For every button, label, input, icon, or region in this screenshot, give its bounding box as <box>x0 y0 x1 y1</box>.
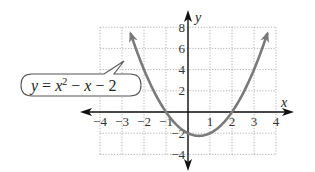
x-axis-label: x <box>280 95 288 110</box>
y-tick-label: 4 <box>179 62 186 77</box>
y-tick-label: −4 <box>171 147 185 162</box>
x-tick-label: 3 <box>251 114 258 129</box>
equation-callout: y = x2 − x − 2 <box>21 61 141 96</box>
y-tick-label: 8 <box>179 20 186 35</box>
parabola-graph: −4−3−2−11234−4−22468 x y y = x2 − x − 2 <box>0 0 315 172</box>
x-tick-label: 4 <box>273 114 280 129</box>
y-tick-label: 6 <box>179 41 186 56</box>
y-tick-label: 2 <box>179 83 186 98</box>
y-axis-label: y <box>193 10 202 25</box>
x-tick-label: −2 <box>137 114 151 129</box>
parabola-path <box>131 34 267 136</box>
x-tick-label: −3 <box>115 114 129 129</box>
equation-label: y = x2 − x − 2 <box>29 76 116 95</box>
x-tick-label: −4 <box>93 114 107 129</box>
x-tick-label: 1 <box>207 114 214 129</box>
